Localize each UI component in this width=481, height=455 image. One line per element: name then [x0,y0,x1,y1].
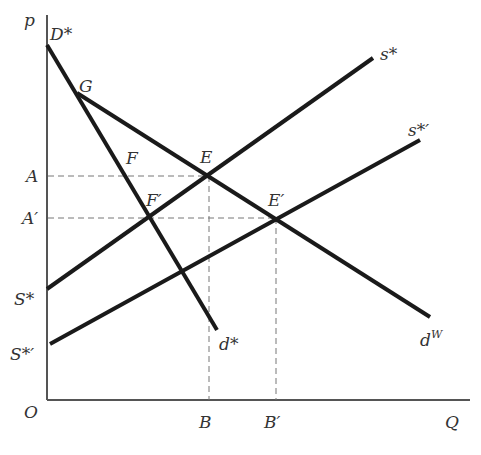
domestic-demand-start-label: D* [49,24,73,44]
price-label-A: A [24,166,38,186]
point-F-prime-label: F′ [145,190,162,210]
point-E-prime-label: E′ [267,190,284,210]
world-demand-end-label: dW [420,328,444,350]
domestic-demand-end-label: d* [219,334,239,354]
shifted-supply-start-label: S*′ [10,344,34,364]
supply-start-label: S* [14,289,35,309]
price-label-A-prime: A′ [20,208,38,228]
economics-diagram: p Q O A A′ B B′ D* d* dW S* s* S*′ s*′ G… [0,0,481,455]
y-axis-label: p [24,10,35,30]
supply-end-label: s* [380,44,398,64]
world-demand-curve [77,93,430,317]
shifted-supply-curve [50,140,420,344]
quantity-label-B-prime: B′ [263,412,280,432]
x-axis-label: Q [445,412,459,432]
point-F-label: F [125,148,139,168]
shifted-supply-end-label: s*′ [408,120,429,140]
quantity-label-B: B [198,412,212,432]
point-E-label: E [199,147,213,167]
point-G-label: G [79,76,93,96]
origin-label: O [24,402,38,422]
